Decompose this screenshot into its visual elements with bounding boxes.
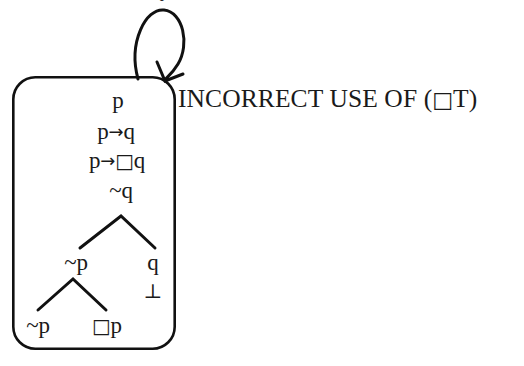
implication-arrow-icon: → [100, 149, 115, 170]
tableau-node-text: q [147, 250, 158, 275]
incorrect-use-annotation: INCORRECT USE OF (□T) [178, 86, 477, 112]
box-modal-operator-icon: □ [115, 149, 133, 172]
tableau-node-text: p→□q [89, 148, 145, 173]
tableau-world-box [13, 77, 174, 348]
tableau-node-not-p-left: ~p [64, 251, 88, 274]
tableau-node-box-p-leaf: □p [92, 314, 122, 337]
figure-canvas: • p p→q p→□q ~q ~p q ⊥ ~p □p [0, 0, 524, 366]
annotation-text: INCORRECT USE OF (□T) [178, 84, 477, 113]
tableau-node-text: p [112, 88, 123, 113]
box-modal-operator-icon: □ [432, 87, 453, 112]
figure-line-art [0, 0, 524, 366]
implication-arrow-icon: → [109, 120, 124, 141]
tableau-node-p-implies-box-q: p→□q [89, 149, 145, 172]
tableau-node-not-p-leaf: ~p [26, 314, 50, 337]
tableau-node-text: □p [92, 313, 122, 338]
tableau-node-p-implies-q: p→q [97, 120, 134, 143]
tableau-node-text: ~p [64, 250, 88, 275]
tableau-node-q-right: q [147, 251, 158, 274]
tableau-node-falsum-closed-branch: ⊥ [144, 281, 163, 301]
tableau-node-text: p→q [97, 119, 134, 144]
tableau-node-text: ~p [26, 313, 50, 338]
box-modal-operator-icon: □ [92, 314, 110, 337]
tableau-node-text: ~q [109, 178, 133, 203]
tableau-node-p: p [112, 89, 123, 112]
falsum-symbol: ⊥ [144, 279, 163, 303]
tableau-node-not-q: ~q [109, 179, 133, 202]
